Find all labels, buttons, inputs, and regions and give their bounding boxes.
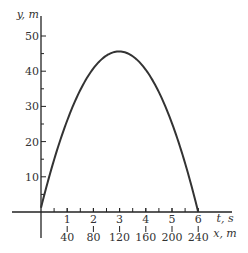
x2-tick-label: 160 [135, 231, 156, 244]
x2-tick-label: 40 [60, 231, 74, 244]
x2-tick-label: 80 [86, 231, 100, 244]
trajectory-chart: 1402803120416052006240 1020304050 y, m t… [0, 0, 248, 253]
x-tick-label: 1 [64, 213, 71, 226]
x-tick-label: 2 [90, 213, 97, 226]
x-tick-label: 3 [116, 213, 123, 226]
x2-tick-label: 200 [162, 231, 183, 244]
y-tick-label: 10 [25, 171, 39, 184]
x-tick-label: 4 [142, 213, 149, 226]
y-axis-label: y, m [16, 8, 39, 21]
y-tick-label: 50 [25, 30, 39, 43]
x-axis-label-distance: x, m [213, 227, 237, 240]
x-ticks: 1402803120416052006240 [54, 208, 209, 244]
x2-tick-label: 240 [188, 231, 209, 244]
y-tick-label: 40 [25, 65, 39, 78]
x-tick-label: 5 [169, 213, 176, 226]
y-tick-label: 20 [25, 136, 39, 149]
y-ticks: 1020304050 [25, 30, 46, 194]
y-tick-label: 30 [25, 100, 39, 113]
x2-tick-label: 120 [109, 231, 130, 244]
trajectory-curve [41, 51, 198, 212]
x-axis-label-time: t, s [216, 212, 233, 225]
x-tick-label: 6 [195, 213, 202, 226]
